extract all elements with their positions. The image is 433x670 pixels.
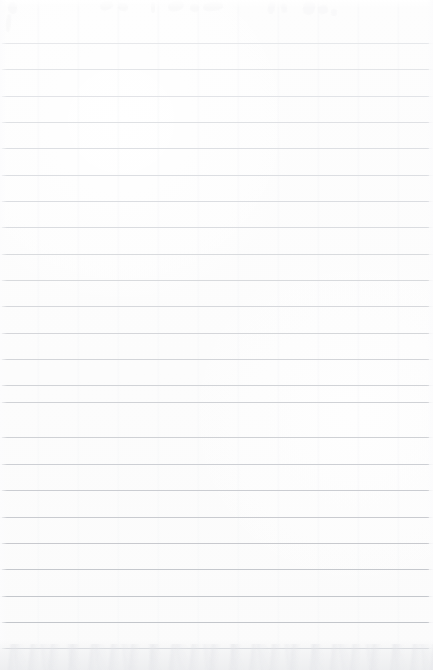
ruled-line bbox=[2, 437, 429, 438]
ghost-mark bbox=[331, 9, 338, 17]
ruled-lines-group bbox=[0, 0, 433, 670]
ruled-line bbox=[2, 43, 429, 44]
ruled-line bbox=[2, 306, 429, 307]
ruled-line bbox=[2, 464, 429, 465]
top-edge-highlight bbox=[0, 0, 433, 8]
ruled-line bbox=[2, 227, 429, 228]
ruled-line bbox=[2, 359, 429, 360]
ruled-line bbox=[2, 622, 429, 623]
ruled-line bbox=[2, 517, 429, 518]
ruled-line bbox=[2, 490, 429, 491]
ruled-line bbox=[2, 333, 429, 334]
ruled-line bbox=[2, 69, 429, 70]
ruled-line bbox=[2, 254, 429, 255]
ruled-line bbox=[2, 543, 429, 544]
ruled-line bbox=[2, 596, 429, 597]
ruled-line bbox=[2, 201, 429, 202]
ruled-line bbox=[2, 148, 429, 149]
left-edge-highlight bbox=[0, 0, 7, 670]
ruled-line bbox=[2, 96, 429, 97]
bottom-mottle-texture bbox=[0, 644, 433, 670]
ruled-line bbox=[2, 569, 429, 570]
scanned-page bbox=[0, 0, 433, 670]
ruled-line bbox=[2, 402, 429, 403]
ruled-line bbox=[2, 175, 429, 176]
right-edge-highlight bbox=[427, 0, 433, 670]
ruled-line bbox=[2, 280, 429, 281]
ruled-line bbox=[2, 122, 429, 123]
ruled-line bbox=[2, 385, 429, 386]
